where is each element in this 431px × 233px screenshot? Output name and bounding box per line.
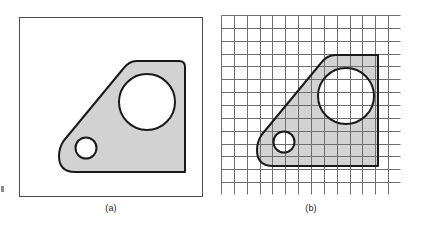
caption-panel-a: (a) <box>19 203 203 213</box>
panel-a-continuous <box>19 17 203 197</box>
page-edge-artifact <box>1 186 4 192</box>
panel-a-canvas <box>19 17 203 197</box>
panel-b-canvas <box>221 15 401 195</box>
caption-panel-b: (b) <box>221 203 401 213</box>
panel-b-rasterized <box>221 15 401 195</box>
large-hole-a <box>119 74 175 130</box>
figure-root: (a) (b) <box>0 0 431 233</box>
small-hole-a <box>76 138 97 159</box>
